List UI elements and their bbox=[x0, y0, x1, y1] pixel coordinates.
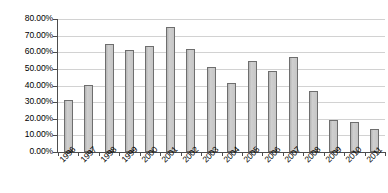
bar bbox=[84, 85, 93, 152]
y-axis-tick-label: 40.00% bbox=[0, 81, 53, 90]
y-axis-tick-label: 20.00% bbox=[0, 114, 53, 123]
y-axis-tick-label: 10.00% bbox=[0, 130, 53, 139]
bar bbox=[207, 67, 216, 152]
bar bbox=[145, 46, 154, 152]
x-axis-tick bbox=[385, 152, 386, 156]
bar bbox=[227, 83, 236, 152]
bar bbox=[186, 49, 195, 152]
y-axis-tick-label: 70.00% bbox=[0, 31, 53, 40]
bar bbox=[166, 27, 175, 152]
y-axis-tick-label: 30.00% bbox=[0, 97, 53, 106]
bar bbox=[248, 61, 257, 152]
y-axis-tick-label: 50.00% bbox=[0, 64, 53, 73]
y-axis-tick-label: 0.00% bbox=[0, 147, 53, 156]
bar bbox=[125, 50, 134, 152]
plot-area bbox=[58, 19, 384, 152]
bar bbox=[289, 57, 298, 152]
bar bbox=[268, 71, 277, 152]
bar-chart: 0.00%10.00%20.00%30.00%40.00%50.00%60.00… bbox=[0, 0, 388, 193]
y-axis-tick-label: 60.00% bbox=[0, 47, 53, 56]
y-axis-tick-label: 80.00% bbox=[0, 14, 53, 23]
y-axis-labels-group: 0.00%10.00%20.00%30.00%40.00%50.00%60.00… bbox=[0, 0, 53, 193]
bar bbox=[309, 91, 318, 153]
bar bbox=[105, 44, 114, 152]
